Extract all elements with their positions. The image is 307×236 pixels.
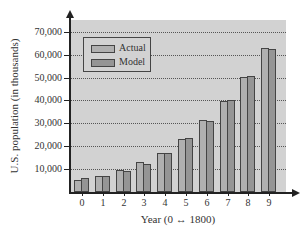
y-axis-title: U.S. population (in thousands) [8,31,20,181]
bar-model [185,138,193,192]
x-tick-label: 4 [158,197,172,208]
x-tick [165,192,166,196]
legend-label-actual: Actual [119,42,146,53]
legend: Actual Model [83,37,151,72]
legend-item-model: Model [91,56,145,67]
bar-model [268,49,276,192]
x-tick-label: 9 [262,197,276,208]
bar-model [81,178,89,192]
gridline [70,32,286,33]
bar-model [206,121,214,192]
y-tick [64,32,71,33]
x-tick-label: 7 [221,197,235,208]
bar-model [164,153,172,192]
x-axis-arrow-icon [292,189,300,197]
chart-root: 10,00020,00030,00040,00050,00060,00070,0… [0,0,307,236]
x-tick-label: 8 [241,197,255,208]
y-tick [64,169,71,170]
y-tick [64,55,71,56]
y-axis [69,14,71,193]
bar-model [123,171,131,192]
x-tick [207,192,208,196]
legend-swatch-actual [91,45,115,53]
x-tick [228,192,229,196]
x-tick-label: 6 [200,197,214,208]
x-tick-label: 2 [117,197,131,208]
x-tick [248,192,249,196]
x-tick-label: 5 [179,197,193,208]
x-tick-label: 0 [75,197,89,208]
y-tick [64,78,71,79]
bar-model [102,176,110,192]
x-tick [124,192,125,196]
x-tick [103,192,104,196]
x-tick-label: 1 [96,197,110,208]
x-tick [269,192,270,196]
x-tick [144,192,145,196]
bar-model [247,76,255,192]
bar-model [227,100,235,192]
legend-swatch-model [91,59,115,67]
bar-model [143,164,151,192]
y-tick [64,100,71,101]
y-axis-arrow-icon [66,10,74,18]
x-tick-label: 3 [137,197,151,208]
legend-label-model: Model [119,56,145,67]
legend-item-actual: Actual [91,42,146,53]
x-tick [82,192,83,196]
x-axis-title: Year (0 ↔ 1800) [70,213,286,225]
y-tick [64,146,71,147]
y-tick [64,123,71,124]
x-tick [186,192,187,196]
